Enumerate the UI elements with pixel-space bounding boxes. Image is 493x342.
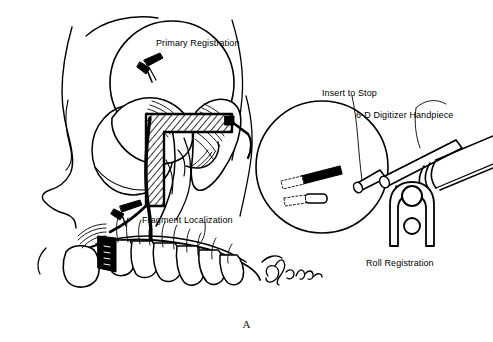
maxillary-tuberosity (63, 246, 99, 287)
fracture-block-solid (98, 236, 116, 272)
label-insert-to-stop: Insert to Stop (322, 88, 377, 99)
label-digitizer-handpiece: 6-D Digitizer Handpiece (356, 110, 453, 121)
figure-background (0, 0, 493, 342)
illustration-canvas (0, 0, 493, 342)
roll-fork-ball (404, 218, 420, 234)
label-fragment-localization: Fragment Localization (142, 215, 233, 226)
figure-root: Primary Registration Fragment Localizati… (0, 0, 493, 342)
label-roll-registration: Roll Registration (366, 258, 434, 269)
roll-fork-ring (402, 186, 422, 206)
label-primary-registration: Primary Registration (156, 38, 240, 49)
figure-caption: A (0, 318, 493, 330)
